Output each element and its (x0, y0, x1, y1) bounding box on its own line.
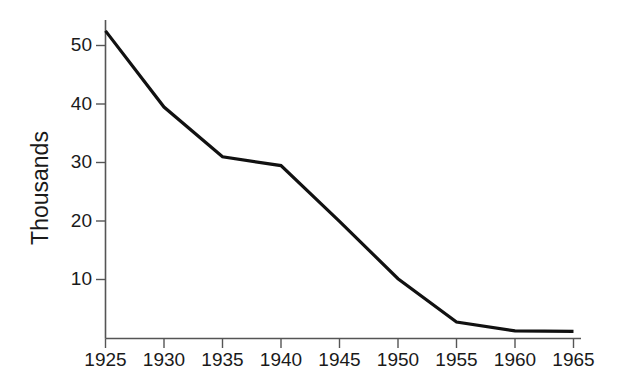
x-axis-ticks (106, 339, 574, 349)
y-axis-tick-labels: 50 40 30 20 10 (71, 34, 92, 289)
x-tick-label-1965: 1965 (552, 349, 594, 370)
y-axis-ticks (96, 46, 106, 280)
data-series-thousands (106, 31, 574, 332)
y-tick-label-10: 10 (71, 268, 92, 289)
y-axis-title: Thousands (27, 131, 53, 245)
line-chart: 50 40 30 20 10 1925 1930 1935 1940 1945 … (0, 0, 630, 381)
x-axis-tick-labels: 1925 1930 1935 1940 1945 1950 1955 1960 … (84, 349, 594, 370)
y-tick-label-20: 20 (71, 210, 92, 231)
x-tick-label-1955: 1955 (435, 349, 477, 370)
x-tick-label-1940: 1940 (260, 349, 302, 370)
y-tick-label-50: 50 (71, 34, 92, 55)
x-tick-label-1950: 1950 (377, 349, 419, 370)
y-tick-label-40: 40 (71, 93, 92, 114)
x-tick-label-1930: 1930 (143, 349, 185, 370)
x-tick-label-1935: 1935 (201, 349, 243, 370)
x-tick-label-1945: 1945 (318, 349, 360, 370)
x-tick-label-1960: 1960 (494, 349, 536, 370)
x-tick-label-1925: 1925 (84, 349, 126, 370)
chart-canvas: 50 40 30 20 10 1925 1930 1935 1940 1945 … (0, 0, 630, 381)
y-tick-label-30: 30 (71, 151, 92, 172)
